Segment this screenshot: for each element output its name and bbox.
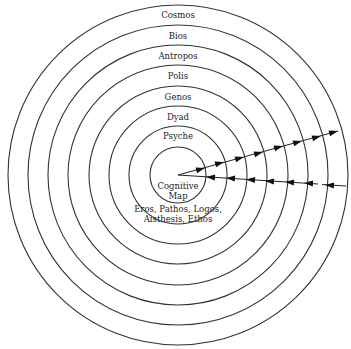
ring-labels: Cosmos Bios Antropos Polis Genos Dyad Ps…	[134, 10, 222, 224]
concentric-diagram: Cosmos Bios Antropos Polis Genos Dyad Ps…	[0, 0, 351, 349]
inward-arrowheads	[206, 174, 334, 189]
label-antropos: Antropos	[157, 51, 197, 61]
label-cosmos: Cosmos	[161, 10, 195, 20]
label-core-line4: Aisthesis, Ethos	[143, 214, 213, 224]
label-core-line1: Cognitive	[157, 181, 198, 191]
label-core-line3: Eros, Pathos, Logos,	[134, 204, 222, 214]
label-bios: Bios	[169, 31, 187, 41]
label-dyad: Dyad	[167, 112, 190, 122]
label-psyche: Psyche	[163, 131, 193, 141]
label-genos: Genos	[165, 92, 192, 102]
label-core-line2: Map	[168, 191, 188, 201]
label-polis: Polis	[168, 71, 188, 81]
outward-arrow	[178, 128, 339, 175]
